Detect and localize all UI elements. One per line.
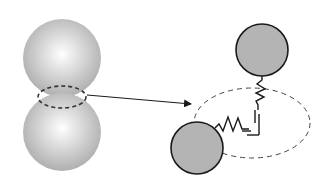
magnify-arrow [87,95,191,104]
lower-particle [171,122,223,174]
normal-spring [256,76,265,110]
shear-spring [215,117,249,131]
bond-model [171,24,310,174]
diagram-canvas [0,0,318,191]
upper-particle [236,24,288,76]
bottom-sphere [23,93,101,171]
